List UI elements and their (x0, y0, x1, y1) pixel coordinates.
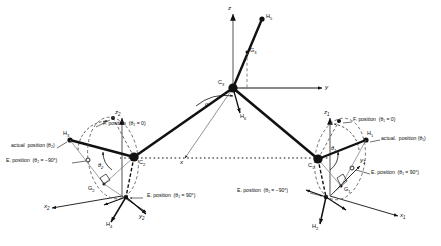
angle-theta2-arc (103, 152, 112, 170)
axis-label-z: z (228, 5, 231, 11)
label-G3: G3 (250, 48, 257, 55)
link-3 (233, 16, 265, 88)
axis-label-y: y (325, 84, 328, 90)
axis-label-x1: x1 (400, 212, 406, 221)
vector-right-aux-2 (306, 190, 326, 197)
label-alpha: α (205, 102, 208, 108)
link-C3-C1 (233, 88, 318, 159)
axis-label-y1: y1 (360, 157, 366, 166)
vector-right-aux (326, 197, 346, 210)
annotation-actual-right: actual. position (θ₁) (381, 136, 426, 141)
annotation-folded-right: F. position (θ₁ = 0) (353, 117, 395, 122)
axis-label-x2: x2 (44, 203, 50, 212)
link-C3-C2 (134, 88, 233, 157)
label-G1: G1 (344, 187, 351, 194)
joint-C2 (129, 152, 138, 161)
joint-C1 (313, 154, 322, 163)
label-C1: C1 (308, 163, 314, 170)
axis-label-x: x (180, 159, 183, 165)
label-theta1: θ1 (331, 146, 336, 153)
leg-left-upper (134, 88, 233, 157)
annotation-extended-neg-right: E. position (θ₁ = −90°) (237, 188, 288, 193)
leader-extneg-left (72, 161, 86, 163)
label-H6: H6 (240, 114, 246, 121)
axis-label-z2: z2 (115, 109, 121, 118)
label-H5: H5 (266, 14, 272, 21)
leader-actual-left (57, 142, 67, 148)
label-C2: C2 (139, 160, 145, 167)
leg-right-upper (233, 88, 318, 159)
radial-G2-y2 (104, 184, 122, 196)
leader-actual-right (370, 140, 380, 142)
label-H2: H2 (312, 224, 318, 231)
axis-label-y2: y2 (139, 213, 145, 222)
label-theta2: θ2 (98, 163, 103, 170)
vector-H2 (320, 197, 326, 224)
label-H4: H4 (106, 222, 112, 229)
label-C3: C3 (218, 80, 224, 87)
point-G3 (246, 51, 249, 54)
link-1-folded (318, 121, 339, 159)
link-2-actual (70, 140, 134, 157)
annotation-extended-neg-left: E. position (θ₂ = −90°) (6, 158, 57, 163)
vector-H4 (111, 197, 126, 222)
annotation-extended-pos-right: E. position (θ₁ = 90°) (371, 170, 419, 175)
label-H1: H1 (367, 131, 373, 138)
right-angle-marker-left (100, 174, 110, 184)
leader-extpos-right (356, 170, 370, 174)
annotation-folded-left: F. position (θ₂ = 0) (103, 121, 146, 126)
axis-label-z1: z1 (324, 109, 330, 118)
leader-folded-right (343, 122, 352, 123)
angle-theta1-folded-arc (334, 124, 359, 150)
link-3-inner-edge (233, 53, 248, 88)
diagram-vector-layer (0, 0, 441, 246)
label-H3: H3 (63, 131, 69, 138)
radial-G1-z1 (330, 186, 341, 196)
label-G2: G2 (88, 186, 95, 193)
annotation-actual-left: actual position (θ₂) (11, 143, 55, 148)
figure-canvas: z y x H5 G3 C3 H6 α z2 y2 x2 H3 H4 G2 C2… (0, 0, 441, 246)
marker-F-position-right (337, 119, 341, 123)
annotation-extended-pos-left: E. position (θ₂ = 90°) (147, 193, 195, 198)
global-frame-axes (185, 14, 322, 158)
vector-left-aux (126, 197, 146, 214)
